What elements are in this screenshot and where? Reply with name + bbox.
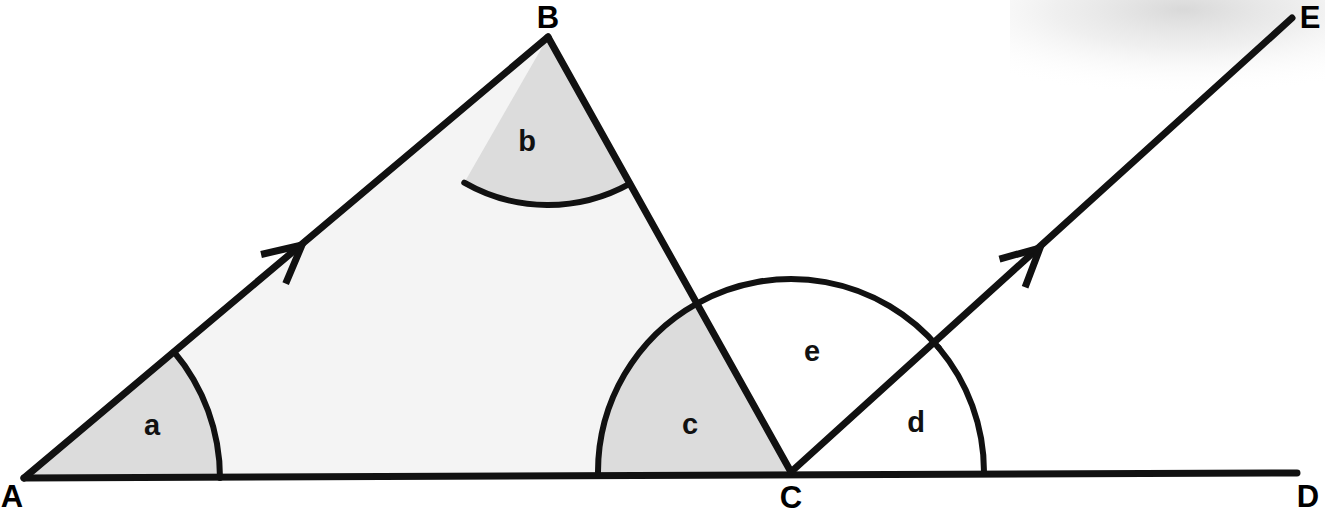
angle-label-a: a: [144, 411, 160, 440]
segment-AD: [24, 473, 1297, 478]
angle-label-b: b: [518, 127, 536, 156]
angle-label-d: d: [907, 408, 925, 437]
vertex-label-B: B: [537, 2, 559, 33]
vertex-label-D: D: [1297, 481, 1319, 512]
vertex-label-C: C: [780, 482, 802, 512]
vertex-label-E: E: [1300, 2, 1321, 33]
geometry-figure: [0, 0, 1325, 512]
diagram-canvas: ABCDE abced: [0, 0, 1325, 512]
angle-label-c: c: [682, 410, 698, 439]
angle-label-e: e: [804, 337, 820, 366]
scan-smudge-top-right: [1010, 0, 1325, 95]
vertex-label-A: A: [1, 481, 23, 512]
